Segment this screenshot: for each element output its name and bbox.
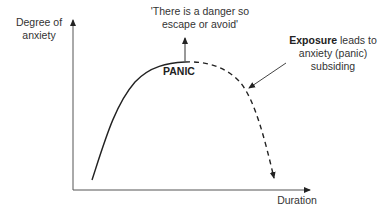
danger-quote: 'There is a danger so escape or avoid' xyxy=(140,5,260,31)
x-axis-label: Duration xyxy=(267,194,327,207)
anxiety-subside-curve xyxy=(185,62,274,178)
exposure-label: Exposure leads to anxiety (panic) subsid… xyxy=(282,34,384,73)
exposure-pointer-arrow xyxy=(249,63,286,88)
y-axis-label: Degree of anxiety xyxy=(6,16,72,42)
exposure-bold: Exposure xyxy=(289,34,337,46)
anxiety-rise-curve xyxy=(92,62,185,180)
panic-label: PANIC xyxy=(163,65,195,78)
